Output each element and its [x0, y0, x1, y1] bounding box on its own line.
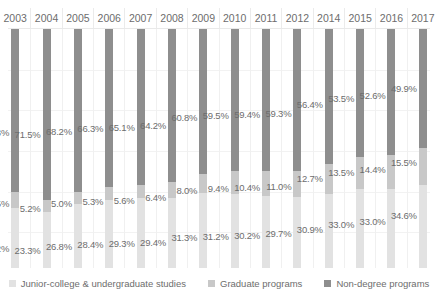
year-label: 2007 [125, 8, 156, 28]
segment-graduate[interactable] [199, 174, 207, 193]
data-label-non-degree: 53.5% [328, 93, 354, 104]
data-label-non-degree: 59.5% [203, 110, 229, 121]
segment-graduate[interactable] [43, 200, 51, 212]
segment-graduate[interactable] [11, 192, 19, 208]
data-label-graduate: 5.2% [20, 203, 41, 214]
segment-junior-college[interactable] [325, 194, 333, 268]
column-2016[interactable]: 52.6%14.4%33.0% [376, 29, 407, 268]
legend-item[interactable]: Junior-college & undergraduate studies [9, 278, 186, 289]
stacked-bar[interactable] [387, 29, 395, 268]
data-label-graduate: 12.7% [297, 173, 323, 184]
data-label-graduate: 8.0% [176, 185, 197, 196]
data-label-non-degree: 64.2% [140, 119, 166, 130]
segment-non-degree[interactable] [74, 29, 82, 192]
chart-legend: Junior-college & undergraduate studiesGr… [0, 274, 438, 292]
column-2014[interactable]: 56.4%12.7%30.9% [314, 29, 345, 268]
segment-junior-college[interactable] [419, 185, 427, 268]
segment-non-degree[interactable] [231, 29, 239, 171]
year-label: 2015 [345, 8, 376, 28]
segment-junior-college[interactable] [105, 200, 113, 268]
stacked-column-chart: 2003200420052006200720082009201020112012… [0, 0, 438, 297]
year-label: 2017 [408, 8, 438, 28]
stacked-bar[interactable] [74, 29, 82, 268]
data-label-junior-college: 34.6% [391, 210, 417, 221]
column-2003[interactable]: 68.3%6.5%25.2% [0, 29, 31, 268]
stacked-bar[interactable] [356, 29, 364, 268]
segment-junior-college[interactable] [356, 189, 364, 268]
data-label-non-degree: 59.4% [234, 108, 260, 119]
segment-graduate[interactable] [168, 182, 176, 197]
data-label-junior-college: 29.7% [265, 228, 291, 239]
data-label-graduate: 6.4% [145, 192, 166, 203]
data-label-junior-college: 33.0% [328, 218, 354, 229]
legend-item[interactable]: Non-degree programs [324, 278, 429, 289]
legend-label: Non-degree programs [336, 278, 429, 289]
stacked-bar[interactable] [419, 29, 427, 268]
segment-non-degree[interactable] [137, 29, 145, 185]
data-label-graduate: 11.0% [266, 180, 291, 191]
data-label-graduate: 15.5% [391, 156, 417, 167]
data-label-junior-college: 31.2% [203, 230, 229, 241]
stacked-bar[interactable] [43, 29, 51, 268]
segment-non-degree[interactable] [199, 29, 207, 174]
data-label-graduate: 13.5% [328, 167, 354, 178]
column-2017[interactable]: 49.9%15.5%34.6% [408, 29, 438, 268]
segment-non-degree[interactable] [168, 29, 176, 182]
year-label: 2004 [31, 8, 62, 28]
data-label-graduate: 10.4% [234, 181, 260, 192]
stacked-bar[interactable] [105, 29, 113, 268]
year-label: 2008 [157, 8, 188, 28]
segment-junior-college[interactable] [11, 208, 19, 268]
data-label-junior-college: 30.2% [234, 229, 260, 240]
column-2005[interactable]: 68.2%5.0%26.8% [63, 29, 94, 268]
year-label: 2012 [282, 8, 313, 28]
year-label: 2010 [220, 8, 251, 28]
column-group: 68.3%6.5%25.2%71.5%5.2%23.3%68.2%5.0%26.… [0, 29, 438, 268]
year-label: 2009 [188, 8, 219, 28]
segment-graduate[interactable] [105, 187, 113, 200]
year-label: 2011 [251, 8, 282, 28]
data-label-junior-college: 31.3% [171, 231, 197, 242]
data-label-graduate: 9.4% [208, 182, 229, 193]
legend-label: Junior-college & undergraduate studies [21, 278, 186, 289]
segment-graduate[interactable] [419, 148, 427, 185]
data-label-non-degree: 56.4% [297, 99, 323, 110]
data-label-non-degree: 60.8% [171, 112, 197, 123]
column-2007[interactable]: 65.1%5.6%29.3% [125, 29, 156, 268]
data-label-non-degree: 52.6% [360, 89, 386, 100]
data-label-junior-college: 33.0% [360, 216, 386, 227]
stacked-bar[interactable] [137, 29, 145, 268]
segment-junior-college[interactable] [74, 204, 82, 268]
data-label-junior-college: 26.8% [46, 241, 72, 252]
data-label-graduate: 5.0% [51, 198, 72, 209]
data-label-non-degree: 65.1% [109, 121, 135, 132]
segment-non-degree[interactable] [262, 29, 270, 171]
data-label-junior-college: 25.2% [0, 242, 9, 253]
legend-item[interactable]: Graduate programs [208, 278, 302, 289]
segment-junior-college[interactable] [387, 189, 395, 268]
data-label-junior-college: 28.4% [77, 239, 103, 250]
year-axis-header: 2003200420052006200720082009201020112012… [0, 8, 438, 28]
year-label: 2016 [376, 8, 407, 28]
column-2015[interactable]: 53.5%13.5%33.0% [345, 29, 376, 268]
data-label-junior-college: 29.4% [140, 236, 166, 247]
segment-graduate[interactable] [74, 192, 82, 204]
data-label-non-degree: 71.5% [15, 129, 41, 140]
legend-label: Graduate programs [220, 278, 302, 289]
segment-non-degree[interactable] [43, 29, 51, 200]
column-2004[interactable]: 71.5%5.2%23.3% [31, 29, 62, 268]
segment-graduate[interactable] [137, 185, 145, 198]
year-label: 2003 [0, 8, 31, 28]
legend-swatch-icon [324, 280, 331, 287]
column-2006[interactable]: 66.3%5.3%28.4% [94, 29, 125, 268]
segment-non-degree[interactable] [11, 29, 19, 192]
data-label-junior-college: 29.3% [109, 237, 135, 248]
year-label: 2006 [94, 8, 125, 28]
year-label: 2005 [63, 8, 94, 28]
data-label-junior-college: 23.3% [15, 245, 41, 256]
segment-non-degree[interactable] [105, 29, 113, 187]
segment-non-degree[interactable] [419, 29, 427, 148]
stacked-bar[interactable] [325, 29, 333, 268]
segment-junior-college[interactable] [137, 198, 145, 268]
stacked-bar[interactable] [11, 29, 19, 268]
